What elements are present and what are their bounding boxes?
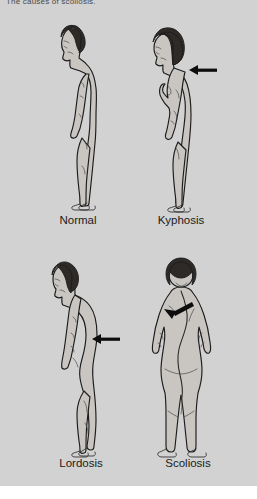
- figure-lordosis: Lordosis: [26, 251, 136, 483]
- kyphosis-figure-art: [126, 16, 236, 216]
- figure-label-lordosis: Lordosis: [26, 457, 136, 469]
- figure-kyphosis: Kyphosis: [126, 16, 236, 238]
- figure-label-kyphosis: Kyphosis: [126, 214, 236, 226]
- lordosis-figure-art: [26, 251, 136, 461]
- normal-body: [62, 27, 97, 210]
- figure-normal: Normal: [28, 16, 128, 238]
- lordosis-body: [53, 265, 97, 457]
- illustration-plate: The causes of scoliosis.: [0, 0, 257, 486]
- figure-scoliosis: Scoliosis: [132, 251, 244, 483]
- normal-figure-art: [28, 16, 128, 216]
- figure-label-normal: Normal: [28, 214, 128, 226]
- figure-label-scoliosis: Scoliosis: [132, 457, 244, 469]
- scoliosis-head: [166, 258, 196, 287]
- cropped-caption-strip: The causes of scoliosis.: [0, 0, 257, 10]
- kyphosis-arrow-icon: [189, 65, 217, 75]
- cropped-caption-text: The causes of scoliosis.: [6, 0, 96, 6]
- scoliosis-figure-art: [132, 251, 244, 461]
